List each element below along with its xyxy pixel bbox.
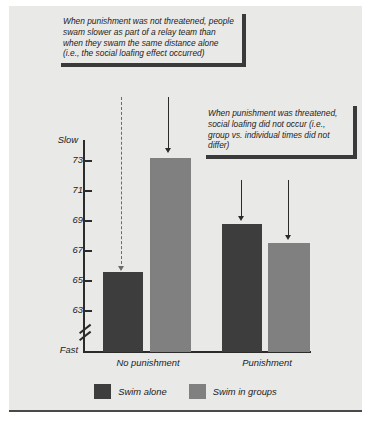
y-axis-bottom-label: Fast xyxy=(42,344,78,355)
x-category-label-no-punishment: No punishment xyxy=(103,357,193,368)
x-category-label-punishment: Punishment xyxy=(222,357,312,368)
chart-legend: Swim alone Swim in groups xyxy=(0,384,371,399)
legend-label-swim-alone: Swim alone xyxy=(118,386,166,397)
y-tick-label: 73 xyxy=(57,154,83,165)
bar-swim-alone-no-punishment[interactable] xyxy=(103,272,143,352)
legend-item-swim-in-groups[interactable]: Swim in groups xyxy=(189,384,277,399)
legend-item-swim-alone[interactable]: Swim alone xyxy=(94,384,166,399)
y-axis-top-label: Slow xyxy=(42,134,78,145)
y-tick-label: 67 xyxy=(57,244,83,255)
annotation-callout-no-punishment-text: When punishment was not threatened, peop… xyxy=(63,16,237,59)
callout-right-edge xyxy=(242,14,246,67)
legend-swatch-icon xyxy=(94,384,111,399)
plot-area xyxy=(83,140,311,352)
legend-label-swim-in-groups: Swim in groups xyxy=(213,386,277,397)
figure-container: When punishment was not threatened, peop… xyxy=(0,0,371,430)
y-tick-label: 63 xyxy=(57,304,83,315)
annotation-callout-no-punishment: When punishment was not threatened, peop… xyxy=(61,14,246,67)
y-tick-label: 65 xyxy=(57,274,83,285)
y-tick-label: 69 xyxy=(57,214,83,225)
callout-bottom-edge xyxy=(61,63,246,67)
legend-swatch-icon xyxy=(189,384,206,399)
bar-swim-in-groups-no-punishment[interactable] xyxy=(150,158,191,352)
y-tick-label: 71 xyxy=(57,184,83,195)
bar-swim-alone-punishment[interactable] xyxy=(222,224,262,352)
panel-base-rule xyxy=(9,410,362,412)
callout-right-edge xyxy=(353,106,357,159)
bar-swim-in-groups-punishment[interactable] xyxy=(268,243,310,352)
